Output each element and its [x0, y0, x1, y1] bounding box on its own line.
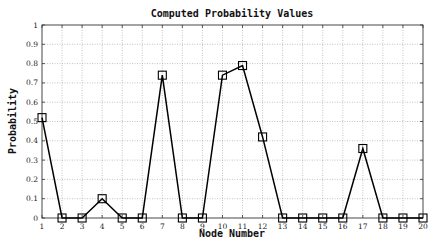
x-tick-label: 13 [278, 222, 288, 231]
x-tick-label: 2 [60, 222, 65, 231]
data-point-markers [38, 62, 427, 222]
grid-lines [42, 25, 423, 218]
y-axis-label: Probability [7, 88, 18, 154]
y-tick-label: 0.8 [26, 59, 38, 68]
y-tick-label: 0.2 [26, 175, 38, 184]
y-tick-label: 0.6 [26, 98, 38, 107]
x-tick-label: 14 [298, 222, 308, 231]
x-tick-label: 8 [180, 222, 185, 231]
y-tick-label: 0.4 [26, 136, 38, 145]
x-tick-label: 16 [338, 222, 348, 231]
x-tick-label: 5 [120, 222, 125, 231]
y-tick-label: 0.3 [26, 156, 38, 165]
x-axis-label: Node Number [199, 228, 265, 239]
chart-title: Computed Probability Values [151, 8, 314, 19]
x-tick-label: 17 [358, 222, 368, 231]
y-tick-label: 1 [33, 21, 38, 30]
probability-chart: Computed Probability Values 00.10.20.30.… [0, 0, 439, 248]
x-tick-label: 3 [80, 222, 85, 231]
x-tick-label: 7 [160, 222, 165, 231]
y-tick-label: 0.1 [26, 194, 38, 203]
x-tick-label: 4 [100, 222, 105, 231]
x-tick-label: 20 [418, 222, 428, 231]
x-tick-label: 19 [398, 222, 408, 231]
y-tick-label: 0.5 [26, 117, 38, 126]
x-tick-label: 18 [378, 222, 388, 231]
x-tick-label: 1 [40, 222, 45, 231]
y-tick-label: 0.9 [26, 40, 38, 49]
y-tick-label: 0.7 [26, 78, 38, 87]
y-tick-label: 0 [33, 214, 38, 223]
x-tick-label: 15 [318, 222, 328, 231]
x-tick-label: 6 [140, 222, 145, 231]
